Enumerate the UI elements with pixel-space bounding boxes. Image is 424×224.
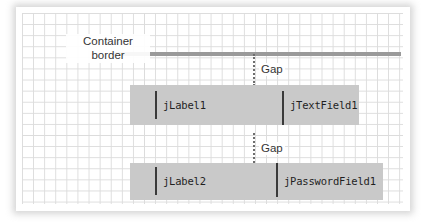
baseline-tick-jtextfield1 [282, 91, 284, 125]
component-label-jtextfield1: jTextField1 [290, 99, 357, 111]
gap-annotation-bottom: Gap [259, 142, 285, 155]
baseline-tick-jlabel2 [155, 167, 157, 195]
component-label-jlabel1: jLabel1 [163, 99, 206, 111]
container-border-annotation: Container border [66, 34, 150, 63]
diagram-stage: Container border Gap Gap jLabel1 jTextFi… [0, 0, 424, 224]
gap-annotation-top: Gap [259, 63, 285, 76]
baseline-tick-jlabel1 [155, 91, 157, 119]
component-label-jlabel2: jLabel2 [163, 175, 206, 187]
gap-guide-bottom [253, 133, 255, 163]
container-border-annotation-line2: border [91, 49, 124, 61]
container-border-rule [114, 52, 401, 56]
gap-guide-top [253, 54, 255, 86]
grid-canvas: Container border Gap Gap jLabel1 jTextFi… [22, 13, 403, 204]
component-label-jpasswordfield1: jPasswordField1 [284, 175, 376, 187]
container-border-annotation-line1: Container [83, 35, 133, 47]
baseline-tick-jpasswordfield1 [276, 163, 278, 197]
